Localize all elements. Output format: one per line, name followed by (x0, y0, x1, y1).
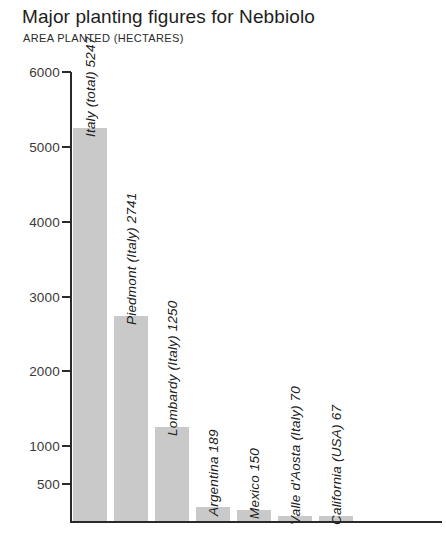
bar-label: Lombardy (Italy) 1250 (165, 301, 180, 437)
chart-container: Major planting figures for Nebbiolo AREA… (0, 0, 446, 554)
bar-label: Italy (total) 5247 (83, 37, 98, 137)
bar (155, 427, 189, 521)
x-axis-line (70, 521, 442, 523)
bar (73, 128, 107, 521)
bar (114, 316, 148, 521)
bar-label: Piedmont (Italy) 2741 (124, 192, 139, 325)
bar-label: California (USA) 67 (329, 405, 344, 525)
plot-area: 500100020003000400050006000 Italy (total… (0, 0, 446, 554)
bar-label: Mexico 150 (247, 448, 262, 519)
bars-layer: Italy (total) 5247Piedmont (Italy) 2741L… (0, 0, 446, 521)
bar-label: Argentina 189 (206, 429, 221, 516)
bar-label: Valle d'Aosta (Italy) 70 (288, 386, 303, 525)
